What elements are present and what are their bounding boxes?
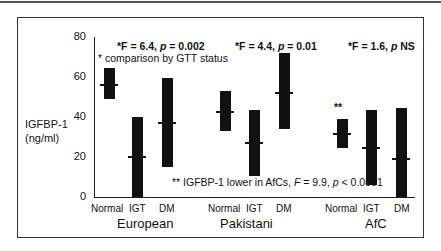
y-tick-0: 0 <box>62 190 86 202</box>
top-rule <box>0 1 441 3</box>
x-label-european-dm: DM <box>159 203 175 214</box>
x-label-pakistani-dm: DM <box>276 203 292 214</box>
x-label-afc-igt: IGT <box>363 203 380 214</box>
annotation-afc: *F = 1.6, p NS <box>348 40 415 52</box>
x-axis <box>94 197 415 198</box>
mean-european-dm <box>158 122 176 124</box>
y-tick-40: 40 <box>62 110 86 122</box>
bar-pakistani-dm <box>279 53 290 129</box>
y-tick-60: 60 <box>62 70 86 82</box>
y-tick-20: 20 <box>62 150 86 162</box>
note-gtt-comparison: * comparison by GTT status <box>98 52 228 64</box>
mean-pakistani-dm <box>275 92 293 94</box>
y-axis <box>94 37 95 197</box>
x-label-european-normal: Normal <box>91 203 123 214</box>
bar-afc-dm <box>396 108 407 197</box>
y-axis-label-line2: (ng/ml) <box>25 131 68 145</box>
x-label-afc-dm: DM <box>394 203 410 214</box>
mean-pakistani-igt <box>245 142 263 144</box>
group-label-afc: AfC <box>365 216 387 231</box>
note-afc-lower: ** IGFBP-1 lower in AfCs, F = 9.9, p < 0… <box>172 176 383 188</box>
mean-european-normal <box>100 84 118 86</box>
mean-afc-normal <box>333 133 351 135</box>
mean-european-igt <box>128 156 146 158</box>
mean-afc-igt <box>362 147 380 149</box>
x-label-european-igt: IGT <box>129 203 146 214</box>
annotation-european: *F = 6.4, p = 0.002 <box>117 40 205 52</box>
group-label-pakistani: Pakistani <box>220 216 273 231</box>
afc-normal-marker: ** <box>334 101 342 113</box>
x-label-afc-normal: Normal <box>325 203 357 214</box>
group-label-european: European <box>117 216 173 231</box>
mean-afc-dm <box>392 158 410 160</box>
x-label-pakistani-igt: IGT <box>246 203 263 214</box>
y-tick-80: 80 <box>62 30 86 42</box>
mean-pakistani-normal <box>216 111 234 113</box>
x-label-pakistani-normal: Normal <box>208 203 240 214</box>
annotation-pakistani: *F = 4.4, p = 0.01 <box>235 40 317 52</box>
